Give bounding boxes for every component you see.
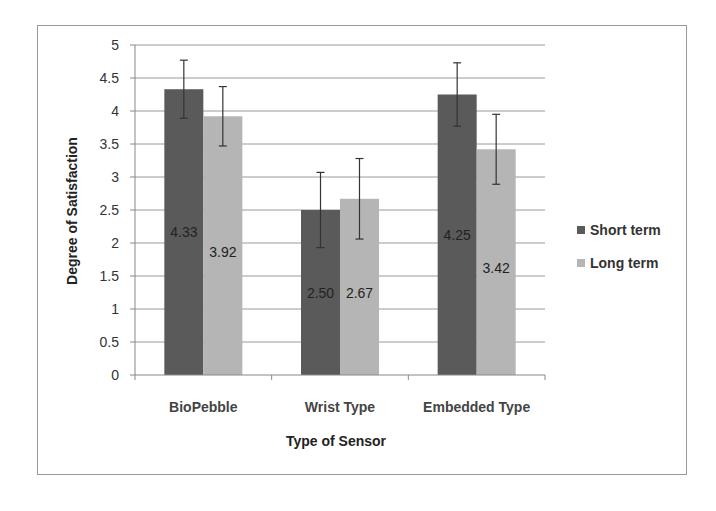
legend-label: Long term	[590, 255, 658, 271]
value-label: 3.42	[483, 260, 510, 276]
x-category-label: Embedded Type	[423, 399, 530, 415]
legend: Short termLong term	[577, 222, 661, 271]
value-label: 2.50	[307, 285, 334, 301]
value-label: 4.25	[444, 227, 471, 243]
y-tick-label: 3	[111, 169, 119, 185]
y-axis-ticks: 00.511.522.533.544.55	[100, 37, 135, 383]
y-tick-label: 4	[111, 103, 119, 119]
y-tick-label: 3.5	[100, 136, 120, 152]
y-tick-label: 4.5	[100, 70, 120, 86]
y-tick-label: 2	[111, 235, 119, 251]
y-tick-label: 0.5	[100, 334, 120, 350]
value-label: 3.92	[209, 244, 236, 260]
legend-swatch	[577, 259, 585, 267]
value-label: 4.33	[170, 224, 197, 240]
x-axis-categories: BioPebbleWrist TypeEmbedded Type	[169, 399, 530, 415]
y-tick-label: 0	[111, 367, 119, 383]
y-tick-label: 2.5	[100, 202, 120, 218]
value-label: 2.67	[346, 285, 373, 301]
y-axis-title: Degree of Satisfaction	[64, 137, 80, 285]
legend-swatch	[577, 226, 585, 234]
x-category-label: BioPebble	[169, 399, 238, 415]
legend-label: Short term	[590, 222, 661, 238]
y-tick-label: 5	[111, 37, 119, 53]
y-tick-label: 1.5	[100, 268, 120, 284]
x-category-label: Wrist Type	[305, 399, 375, 415]
bar-chart: 00.511.522.533.544.55 4.333.922.502.674.…	[0, 0, 716, 511]
y-tick-label: 1	[111, 301, 119, 317]
x-axis-title: Type of Sensor	[286, 433, 387, 449]
